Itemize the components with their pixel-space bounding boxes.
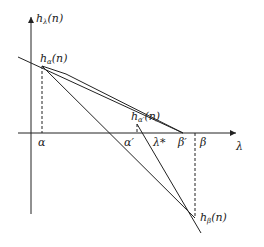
x-axis-label: λ [235, 140, 243, 153]
diagram-svg: hλ(n) λ hα(n) hα′(n) hβ(n) α α′ λ* β′ β [0, 0, 264, 247]
tick-lambda-star: λ* [152, 136, 166, 149]
tick-alpha: α [38, 136, 46, 149]
alpha-prime-line [137, 124, 201, 233]
tick-alpha-prime: α′ [124, 136, 134, 149]
tick-beta: β [199, 136, 206, 149]
h-beta-label: hβ(n) [200, 211, 227, 225]
tick-beta-prime: β′ [177, 136, 187, 149]
diagram-canvas: hλ(n) λ hα(n) hα′(n) hβ(n) α α′ λ* β′ β [0, 0, 264, 247]
alpha-beta-line [42, 66, 195, 218]
y-axis-label: hλ(n) [36, 12, 63, 26]
h-alpha-label: hα(n) [40, 52, 68, 66]
h-alpha-prime-label: hα′(n) [131, 110, 160, 124]
